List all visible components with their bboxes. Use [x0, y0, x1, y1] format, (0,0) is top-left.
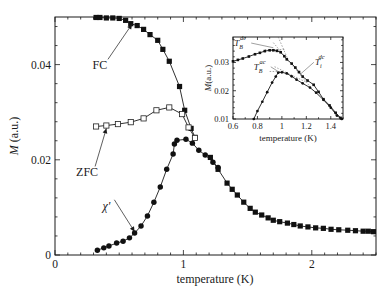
main-point-high-t-tail-merged — [313, 225, 318, 230]
inset-point-zfc-dc — [312, 83, 315, 86]
main-point-high-t-tail-merged — [215, 167, 220, 172]
main-point-chi-prime — [101, 245, 106, 250]
annotation-superscript: dc — [319, 53, 325, 60]
inset-point-zfc-dc — [232, 60, 235, 63]
main-point-fc — [123, 18, 128, 23]
main-point-fc — [141, 27, 146, 32]
main-y-axis-label-unit: (a.u.) — [7, 117, 21, 145]
main-point-fc — [160, 47, 165, 52]
main-point-chi-prime — [190, 140, 195, 145]
main-point-high-t-tail-merged — [305, 224, 310, 229]
main-point-high-t-tail-merged — [259, 212, 264, 217]
main-x-tick-label: 0 — [52, 258, 58, 270]
annotation-arrow-zfc — [95, 128, 106, 166]
inset-point-chi-prime-ac — [295, 78, 298, 81]
inset-point-zfc-dc — [301, 75, 304, 78]
main-point-high-t-tail-merged — [366, 229, 371, 234]
main-point-chi-prime — [210, 159, 215, 164]
main-point-high-t-tail-merged — [230, 187, 235, 192]
main-point-chi-prime — [164, 167, 169, 172]
main-y-tick-label: 0.02 — [31, 154, 51, 166]
inset-point-chi-prime-ac — [309, 86, 312, 89]
main-point-zfc — [93, 124, 98, 129]
inset-point-chi-prime-ac — [285, 72, 288, 75]
inset-background — [233, 37, 343, 119]
main-point-chi-prime — [138, 223, 143, 228]
annotation-label-chi-prime: χ' — [101, 199, 110, 213]
main-point-high-t-tail-merged — [224, 181, 229, 186]
main-point-fc — [97, 15, 102, 20]
inset-point-zfc-dc — [237, 59, 240, 62]
main-x-tick-label: 1 — [181, 258, 187, 270]
main-point-high-t-tail-merged — [371, 229, 376, 234]
main-point-chi-prime — [145, 213, 150, 218]
main-point-high-t-tail-merged — [266, 215, 271, 220]
main-point-chi-prime — [151, 199, 156, 204]
main-point-chi-prime — [95, 248, 100, 253]
inset-point-chi-prime-ac — [266, 91, 269, 94]
inset-point-zfc-dc — [294, 66, 297, 69]
inset-y-axis-label-unit: (a.u.) — [203, 65, 213, 84]
inset-point-chi-prime-ac — [290, 75, 293, 78]
inset-point-chi-prime-ac — [322, 98, 325, 101]
main-point-zfc — [186, 125, 191, 130]
inset-point-zfc-dc — [268, 49, 271, 52]
inset-point-zfc-dc — [334, 111, 337, 114]
inset-point-zfc-dc — [263, 50, 266, 53]
main-point-zfc — [180, 112, 185, 117]
main-point-chi-prime — [183, 137, 188, 142]
main-point-high-t-tail-merged — [253, 210, 258, 215]
main-point-chi-prime — [127, 235, 132, 240]
annotation-arrow-fc — [108, 24, 132, 59]
inset-x-tick-label: 1.2 — [301, 121, 312, 131]
inset-point-chi-prime-ac — [336, 114, 339, 117]
inset-point-zfc-dc — [248, 55, 251, 58]
main-point-chi-prime — [170, 151, 175, 156]
inset-x-axis-label: temperature (K) — [259, 133, 317, 143]
main-point-fc — [104, 15, 109, 20]
inset-point-chi-prime-ac — [329, 106, 332, 109]
main-point-chi-prime — [114, 240, 119, 245]
inset-point-chi-prime-ac — [340, 118, 343, 121]
main-point-high-t-tail-merged — [235, 192, 240, 197]
main-x-axis-label: temperature (K) — [177, 272, 254, 286]
inset-y-tick-label: 0.01 — [214, 114, 229, 124]
annotation-superscript: dc — [240, 34, 246, 41]
inset-x-tick-label: 0.8 — [252, 121, 263, 131]
main-point-chi-prime — [120, 238, 125, 243]
main-point-high-t-tail-merged — [361, 229, 366, 234]
inset-point-chi-prime-ac — [271, 81, 274, 84]
main-point-chi-prime — [196, 148, 201, 153]
main-point-high-t-tail-merged — [248, 206, 253, 211]
main-point-fc — [110, 15, 115, 20]
annotation-arrowhead-chi-prime — [130, 226, 135, 232]
main-point-zfc — [192, 135, 197, 140]
main-point-high-t-tail-merged — [241, 200, 246, 205]
main-point-high-t-tail-merged — [328, 227, 333, 232]
main-point-high-t-tail-merged — [208, 155, 213, 160]
inset-point-zfc-dc — [259, 52, 262, 55]
annotation-arrow-chi-prime — [114, 200, 134, 232]
main-point-chi-prime — [158, 184, 163, 189]
inset-x-tick-label: 0.6 — [228, 121, 239, 131]
inset-x-tick-label: 1.4 — [325, 121, 336, 131]
inset-point-chi-prime-ac — [261, 100, 264, 103]
main-point-fc — [177, 84, 182, 89]
inset-plot: 0.60.811.21.40.010.020.03 TBdcTBacTidc t… — [203, 34, 343, 143]
inset-y-tick-label: 0.03 — [214, 57, 229, 67]
inset-y-axis-label: M(a.u.) — [203, 65, 213, 93]
main-point-high-t-tail-merged — [285, 221, 290, 226]
inset-point-chi-prime-ac — [274, 75, 277, 78]
inset-point-zfc-dc — [279, 51, 282, 54]
main-point-fc — [135, 23, 140, 28]
inset-point-chi-prime-ac — [315, 91, 318, 94]
main-point-high-t-tail-merged — [345, 228, 350, 233]
main-point-high-t-tail-merged — [321, 226, 326, 231]
annotation-label-fc: FC — [93, 58, 108, 72]
main-point-high-t-tail-merged — [271, 218, 276, 223]
main-point-high-t-tail-merged — [277, 219, 282, 224]
annotation-label-zfc: ZFC — [76, 165, 98, 179]
inset-point-zfc-dc — [241, 57, 244, 60]
main-point-high-t-tail-merged — [336, 227, 341, 232]
main-point-high-t-tail-merged — [298, 223, 303, 228]
